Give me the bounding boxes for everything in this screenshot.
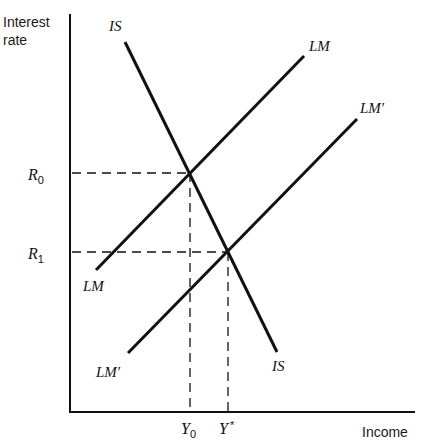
ystar-superscript: * bbox=[230, 419, 235, 431]
r1-symbol: R bbox=[27, 245, 38, 262]
ystar-symbol: Y bbox=[219, 420, 230, 437]
r0-symbol: R bbox=[27, 166, 38, 183]
is-lm-diagram: Interest rate Income IS IS LM LM LM′ LM′… bbox=[0, 0, 428, 448]
ystar-label: Y* bbox=[219, 419, 235, 437]
y0-label: Y0 bbox=[181, 420, 196, 440]
lm-curve bbox=[96, 56, 304, 270]
y-axis-title-line2: rate bbox=[3, 32, 27, 48]
y0-subscript: 0 bbox=[190, 428, 196, 440]
lm-label-top: LM bbox=[308, 38, 331, 54]
lm-prime-label-top: LM′ bbox=[359, 100, 385, 116]
y-axis-title-line1: Interest bbox=[3, 14, 50, 30]
is-label-top: IS bbox=[108, 18, 122, 34]
lm-prime-curve bbox=[128, 119, 357, 353]
lm-label-bottom: LM bbox=[82, 278, 105, 294]
r1-label: R1 bbox=[27, 245, 44, 265]
r0-label: R0 bbox=[27, 166, 44, 186]
r0-subscript: 0 bbox=[38, 174, 44, 186]
lm-prime-label-bottom: LM′ bbox=[95, 364, 121, 380]
x-axis-title: Income bbox=[362, 424, 408, 440]
is-label-bottom: IS bbox=[271, 358, 285, 374]
is-curve bbox=[125, 42, 277, 352]
r1-subscript: 1 bbox=[38, 253, 44, 265]
